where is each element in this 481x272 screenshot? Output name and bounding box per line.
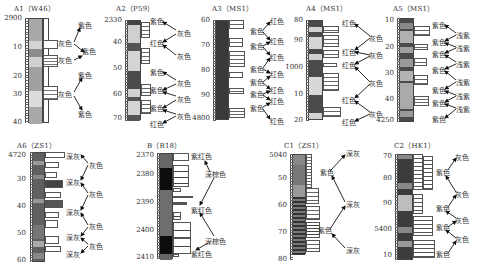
tick-label: 50: [98, 64, 122, 72]
minor-tick: [30, 203, 33, 204]
minor-tick: [25, 77, 28, 78]
minor-tick: [25, 42, 28, 43]
minor-tick: [397, 118, 400, 119]
minor-tick: [290, 238, 293, 239]
minor-tick: [25, 110, 28, 111]
minor-tick: [397, 42, 400, 43]
minor-tick: [213, 104, 216, 105]
color-label: 紫色: [82, 46, 96, 56]
color-label: 灰色: [455, 152, 469, 162]
minor-tick: [125, 98, 128, 99]
lithology-bar: [43, 55, 58, 67]
minor-tick: [30, 193, 33, 194]
panel-title: A6（ZS1）: [17, 140, 56, 150]
minor-tick: [213, 34, 216, 35]
minor-tick: [306, 39, 309, 40]
panel-title: B（B18）: [147, 140, 181, 150]
color-label: 灰色: [89, 241, 103, 251]
minor-tick: [30, 179, 33, 180]
minor-tick: [30, 214, 33, 215]
minor-tick: [157, 248, 160, 249]
minor-tick: [395, 154, 398, 155]
minor-tick: [25, 104, 28, 105]
minor-tick: [290, 243, 293, 244]
minor-tick: [25, 40, 28, 41]
minor-tick: [30, 187, 33, 188]
minor-tick: [25, 75, 28, 76]
minor-tick: [306, 98, 309, 99]
color-label: 深灰: [66, 207, 80, 217]
minor-tick: [395, 170, 398, 171]
color-label: 紫色: [436, 167, 450, 177]
minor-tick: [306, 25, 309, 26]
lithology-bar: [413, 216, 433, 236]
color-label: 紫色: [432, 65, 446, 75]
lithology-bar: [141, 48, 150, 64]
minor-tick: [30, 190, 33, 191]
tick-label: 90: [280, 36, 303, 44]
lithology-column: [399, 18, 414, 122]
minor-tick: [213, 28, 216, 29]
minor-tick: [25, 113, 28, 114]
minor-tick: [290, 195, 293, 196]
color-label: 深灰: [66, 249, 80, 259]
minor-tick: [125, 96, 128, 97]
color-label: 灰色: [58, 89, 72, 99]
lithology-bar: [173, 202, 187, 205]
lithology-column: [32, 152, 45, 262]
tick-label: 30: [372, 69, 394, 77]
minor-tick: [395, 205, 398, 206]
minor-tick: [213, 25, 216, 26]
color-label: 紫色: [78, 20, 92, 30]
color-label: 紫色: [432, 37, 446, 47]
minor-tick: [25, 94, 28, 95]
minor-tick: [125, 25, 128, 26]
lithology-column: [159, 153, 173, 259]
minor-tick: [157, 218, 160, 219]
lithology-bar: [45, 180, 63, 188]
minor-tick: [213, 39, 216, 40]
minor-tick: [395, 176, 398, 177]
minor-tick: [25, 53, 28, 54]
lithology-bar: [323, 63, 337, 67]
color-label: 灰色: [89, 160, 103, 170]
color-label: 灰色: [58, 38, 72, 48]
minor-tick: [395, 203, 398, 204]
lithology-bar: [323, 50, 339, 58]
minor-tick: [157, 199, 160, 200]
lithology-bar: [45, 200, 63, 208]
lithology-bar: [414, 44, 428, 50]
minor-tick: [213, 90, 216, 91]
color-label: 紫色: [250, 77, 264, 87]
minor-tick: [397, 67, 400, 68]
minor-tick: [157, 256, 160, 257]
minor-tick: [397, 91, 400, 92]
color-label: 红色: [342, 95, 356, 105]
minor-tick: [395, 230, 398, 231]
minor-tick: [125, 74, 128, 75]
minor-tick: [30, 160, 33, 161]
lithology-bar: [306, 188, 319, 204]
minor-tick: [395, 211, 398, 212]
lithology-bar: [414, 26, 430, 36]
minor-tick: [30, 230, 33, 231]
minor-tick: [397, 115, 400, 116]
color-label: 紫红色: [191, 151, 212, 161]
minor-tick: [30, 182, 33, 183]
minor-tick: [306, 36, 309, 37]
lithology-bar: [45, 246, 61, 252]
minor-tick: [395, 165, 398, 166]
minor-tick: [306, 117, 309, 118]
tick-label: 20: [372, 43, 394, 51]
minor-tick: [395, 249, 398, 250]
minor-tick: [306, 66, 309, 67]
minor-tick: [306, 120, 309, 121]
minor-tick: [306, 79, 309, 80]
lithology-bar: [45, 192, 61, 198]
minor-tick: [306, 20, 309, 21]
minor-tick: [125, 20, 128, 21]
minor-tick: [397, 37, 400, 38]
color-label: 灰色: [369, 78, 383, 88]
minor-tick: [213, 69, 216, 70]
minor-tick: [290, 259, 293, 260]
